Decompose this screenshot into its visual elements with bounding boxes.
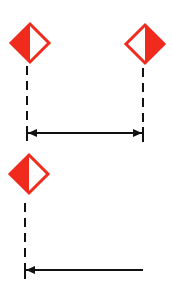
top-panel: [11, 24, 164, 142]
bottom-marker-icon: [10, 155, 48, 193]
right-marker-icon: [126, 25, 164, 63]
left-marker-icon: [11, 24, 49, 62]
bottom-panel: [10, 155, 143, 279]
diagram-canvas: [0, 0, 172, 292]
